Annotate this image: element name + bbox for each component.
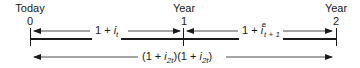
- span-part2-open: (1 +: [177, 50, 199, 62]
- span-part1-open: (1 +: [142, 50, 164, 62]
- span-expression: (1 + i2t)(1 + i2t): [139, 50, 215, 67]
- point-0-label: Today: [12, 2, 48, 14]
- point-2-label: Year: [320, 2, 352, 14]
- segment-1-expression: 1 + it: [92, 24, 121, 41]
- segment-2-sup: e: [262, 19, 266, 31]
- segment-2-base: 1 +: [242, 24, 261, 36]
- segment-2-expression: 1 + iet + 1: [239, 24, 283, 41]
- point-2-number: 2: [330, 15, 342, 27]
- point-1-label: Year: [168, 2, 200, 14]
- span-part2-close: ): [209, 50, 213, 62]
- span-part2-sub: 2t: [202, 56, 209, 65]
- segment-1-sub: t: [116, 30, 118, 39]
- segment-2-var-group: iet + 1: [261, 24, 280, 41]
- segment-2-sub: t + 1: [264, 29, 280, 41]
- point-1-number: 1: [178, 15, 190, 27]
- segment-1-base: 1 +: [95, 24, 114, 36]
- point-0-number: 0: [24, 15, 36, 27]
